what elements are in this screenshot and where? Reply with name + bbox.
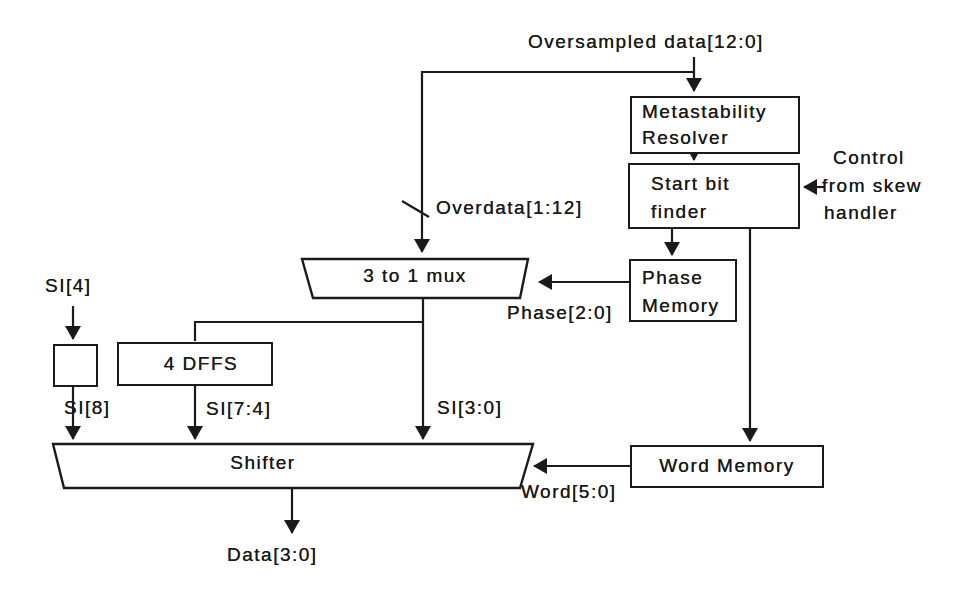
- block-word-memory: Word Memory: [630, 445, 824, 488]
- si74-label: SI[7:4]: [206, 398, 271, 420]
- si30-label: SI[3:0]: [437, 397, 502, 419]
- block-dff-single: [53, 344, 98, 387]
- start-bit-finder-line1: Start bit: [651, 170, 798, 198]
- control-label-line1: Control: [833, 147, 905, 169]
- oversampled-data-label: Oversampled data[12:0]: [528, 31, 764, 53]
- block-metastability-resolver: Metastability Resolver: [630, 96, 800, 154]
- block-4-dffs: 4 DFFS: [117, 342, 273, 386]
- phase-bus-label: Phase[2:0]: [507, 302, 613, 324]
- control-label-line2: from skew: [822, 175, 922, 197]
- metastability-resolver-line1: Metastability: [642, 99, 798, 125]
- phase-memory-line2: Memory: [642, 292, 735, 320]
- data-out-label: Data[3:0]: [227, 544, 318, 566]
- start-bit-finder-line2: finder: [651, 198, 798, 226]
- mux-label: 3 to 1 mux: [302, 265, 528, 287]
- si4-label: SI[4]: [45, 275, 92, 297]
- block-diagram: Metastability Resolver Start bit finder …: [0, 0, 976, 600]
- word-bus-label: Word[5:0]: [521, 481, 617, 503]
- wire-branch-to-4dffs: [195, 322, 423, 341]
- overdata-bus-label: Overdata[1:12]: [436, 197, 583, 219]
- control-label-line3: handler: [824, 202, 898, 224]
- metastability-resolver-line2: Resolver: [642, 125, 798, 151]
- block-phase-memory: Phase Memory: [629, 259, 737, 322]
- si8-label: SI[8]: [64, 397, 111, 419]
- shifter-label: Shifter: [148, 452, 378, 474]
- wiring-layer: [0, 0, 976, 600]
- block-start-bit-finder: Start bit finder: [628, 163, 800, 229]
- phase-memory-line1: Phase: [642, 264, 735, 292]
- bus-slash-icon: [402, 201, 429, 217]
